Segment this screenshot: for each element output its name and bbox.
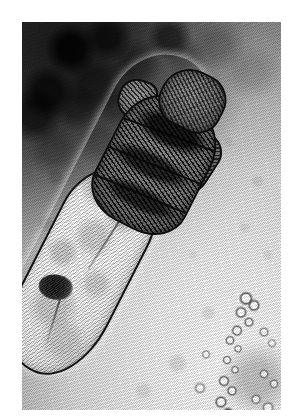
- micrograph-plate: [22, 22, 281, 410]
- screenshot-canvas: [0, 0, 297, 420]
- film-grain: [22, 22, 281, 410]
